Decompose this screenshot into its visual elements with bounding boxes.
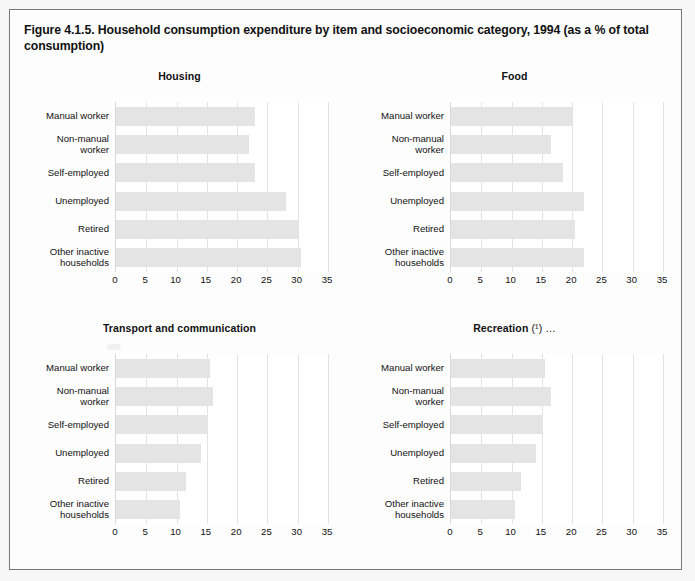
axis-tick-label: 10	[505, 526, 516, 537]
gridline	[633, 102, 634, 272]
axis-tick-label: 20	[566, 526, 577, 537]
bar	[116, 387, 213, 406]
gridline	[207, 354, 208, 524]
axis-tick-label: 5	[143, 274, 148, 285]
gridline	[481, 102, 482, 272]
axis-tick-label: 25	[596, 526, 607, 537]
axis-tick-label: 35	[657, 274, 668, 285]
bar	[451, 220, 575, 239]
category-label: Unemployed	[347, 448, 444, 459]
category-axis: Manual workerNon-manual workerSelf-emplo…	[347, 354, 450, 524]
gridline	[237, 354, 238, 524]
gridline	[146, 354, 147, 524]
gridline	[663, 354, 664, 524]
bars-plot	[115, 354, 328, 524]
chart-title-text: Food	[501, 70, 527, 82]
chart-title: Housing	[12, 70, 347, 82]
figure-title: Figure 4.1.5. Household consumption expe…	[24, 22, 664, 54]
axis-tick-label: 25	[596, 274, 607, 285]
axis-tick-label: 0	[112, 526, 117, 537]
category-label: Non-manual worker	[12, 134, 109, 155]
chart-title: Recreation (¹) …	[347, 322, 682, 334]
gridline	[481, 354, 482, 524]
category-axis: Manual workerNon-manual workerSelf-emplo…	[347, 102, 450, 272]
bar	[451, 472, 521, 491]
chart-title: Transport and communication	[12, 322, 347, 334]
axis-tick-label: 20	[566, 274, 577, 285]
value-axis: 05101520253035	[115, 526, 345, 540]
plot-area: Manual workerNon-manual workerSelf-emplo…	[12, 102, 347, 297]
chart-transport-and-communication: Transport and communicationManual worker…	[12, 318, 347, 569]
axis-tick-label: 0	[447, 274, 452, 285]
axis-tick-label: 30	[626, 526, 637, 537]
category-axis: Manual workerNon-manual workerSelf-emplo…	[12, 354, 115, 524]
category-label: Unemployed	[12, 448, 109, 459]
axis-tick-label: 20	[231, 274, 242, 285]
axis-tick-label: 30	[291, 526, 302, 537]
plot-area: Manual workerNon-manual workerSelf-emplo…	[347, 354, 682, 549]
gridline	[602, 102, 603, 272]
bar	[116, 135, 249, 154]
bar	[451, 359, 545, 378]
gridline	[177, 102, 178, 272]
bar	[451, 107, 572, 126]
bar	[116, 415, 207, 434]
bars-plot	[115, 102, 328, 272]
gridline	[267, 102, 268, 272]
gridline	[146, 102, 147, 272]
bar	[116, 472, 186, 491]
category-label: Self-employed	[12, 420, 109, 431]
gridline	[328, 102, 329, 272]
bar	[116, 107, 255, 126]
gridline	[512, 354, 513, 524]
chart-title-footnote: (¹) …	[531, 322, 555, 334]
page-background: Figure 4.1.5. Household consumption expe…	[0, 0, 695, 581]
chart-title-text: Transport and communication	[103, 322, 256, 334]
axis-tick-label: 25	[261, 274, 272, 285]
bar	[451, 387, 551, 406]
category-label: Non-manual worker	[12, 386, 109, 407]
category-label: Retired	[12, 476, 109, 487]
bar	[116, 500, 180, 519]
value-axis: 05101520253035	[450, 274, 680, 288]
category-label: Manual worker	[12, 363, 109, 374]
category-label: Other inactive households	[347, 499, 444, 520]
figure-container: Figure 4.1.5. Household consumption expe…	[9, 9, 682, 570]
value-axis: 05101520253035	[450, 526, 680, 540]
bar	[451, 248, 584, 267]
category-label: Manual worker	[347, 363, 444, 374]
category-label: Manual worker	[12, 111, 109, 122]
axis-tick-label: 5	[143, 526, 148, 537]
gridline	[542, 102, 543, 272]
chart-housing: HousingManual workerNon-manual workerSel…	[12, 66, 347, 317]
axis-tick-label: 10	[505, 274, 516, 285]
axis-tick-label: 10	[170, 274, 181, 285]
gridline	[572, 354, 573, 524]
bar	[451, 192, 584, 211]
category-label: Retired	[12, 224, 109, 235]
category-label: Retired	[347, 476, 444, 487]
chart-title-text: Recreation	[473, 322, 528, 334]
category-label: Other inactive households	[12, 247, 109, 268]
chart-food: FoodManual workerNon-manual workerSelf-e…	[347, 66, 682, 317]
axis-tick-label: 25	[261, 526, 272, 537]
gridline	[298, 102, 299, 272]
gridline	[602, 354, 603, 524]
category-label: Other inactive households	[347, 247, 444, 268]
axis-tick-label: 5	[478, 274, 483, 285]
plot-area: Manual workerNon-manual workerSelf-emplo…	[12, 354, 347, 549]
bar	[451, 444, 536, 463]
bar	[451, 500, 515, 519]
category-label: Manual worker	[347, 111, 444, 122]
gridline	[207, 102, 208, 272]
category-label: Self-employed	[12, 168, 109, 179]
chart-title-text: Housing	[158, 70, 201, 82]
gridline	[237, 102, 238, 272]
bar	[116, 359, 210, 378]
category-label: Retired	[347, 224, 444, 235]
gridline	[298, 354, 299, 524]
gridline	[663, 102, 664, 272]
chart-grid: HousingManual workerNon-manual workerSel…	[10, 66, 681, 569]
axis-tick-label: 15	[201, 274, 212, 285]
bar	[116, 220, 298, 239]
